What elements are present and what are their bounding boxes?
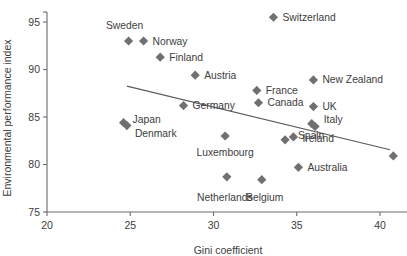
- point-label: Norway: [153, 36, 189, 47]
- data-marker: [222, 172, 231, 181]
- x-axis: 2025303540: [41, 212, 407, 231]
- data-marker: [294, 163, 303, 172]
- data-marker: [221, 131, 230, 140]
- point-label: Denmark: [135, 128, 178, 139]
- data-marker: [124, 36, 133, 45]
- x-tick-label: 20: [41, 219, 53, 231]
- data-marker: [252, 86, 261, 95]
- data-marker: [289, 132, 298, 141]
- data-marker: [156, 53, 165, 62]
- data-marker: [257, 175, 266, 184]
- point-label: Switzerland: [282, 12, 335, 23]
- point-label: New Zealand: [322, 74, 383, 85]
- point-label: Australia: [307, 162, 347, 173]
- data-marker: [254, 98, 263, 107]
- point-label: Japan: [133, 114, 161, 125]
- trend-line-path: [127, 86, 390, 150]
- data-marker: [179, 101, 188, 110]
- data-marker: [139, 36, 148, 45]
- point-label: Netherlands: [197, 192, 253, 203]
- point-label: France: [266, 85, 298, 96]
- point-label: Germany: [193, 100, 236, 111]
- y-tick-label: 95: [28, 16, 40, 28]
- data-marker: [389, 151, 398, 160]
- x-tick-label: 40: [374, 219, 386, 231]
- point-label: Luxembourg: [197, 147, 255, 158]
- point-label: Finland: [169, 52, 203, 63]
- y-tick-label: 75: [28, 206, 40, 218]
- point-label: Belgium: [246, 192, 283, 203]
- point-label: Sweden: [106, 20, 143, 31]
- point-label: Austria: [204, 70, 236, 81]
- scatter-chart: 7580859095 2025303540 SwitzerlandSwedenN…: [0, 0, 407, 256]
- y-tick-label: 90: [28, 63, 40, 75]
- trend-line: [127, 86, 390, 150]
- x-axis-title: Gini coefficient: [194, 244, 263, 256]
- data-marker: [269, 13, 278, 22]
- y-tick-label: 80: [28, 158, 40, 170]
- data-marker: [191, 71, 200, 80]
- y-axis-title: Environmental performance index: [1, 39, 13, 197]
- point-label: Canada: [267, 97, 303, 108]
- y-tick-label: 85: [28, 111, 40, 123]
- point-label: Italy: [324, 114, 344, 125]
- point-label: UK: [322, 101, 336, 112]
- point-label: Ireland: [302, 133, 334, 144]
- data-marker: [280, 135, 289, 144]
- data-marker: [309, 102, 318, 111]
- x-tick-label: 25: [124, 219, 136, 231]
- data-marker: [309, 75, 318, 84]
- x-tick-label: 35: [291, 219, 303, 231]
- y-axis: 7580859095: [28, 12, 47, 218]
- x-tick-label: 30: [208, 219, 220, 231]
- chart-canvas: 7580859095 2025303540 SwitzerlandSwedenN…: [0, 0, 407, 256]
